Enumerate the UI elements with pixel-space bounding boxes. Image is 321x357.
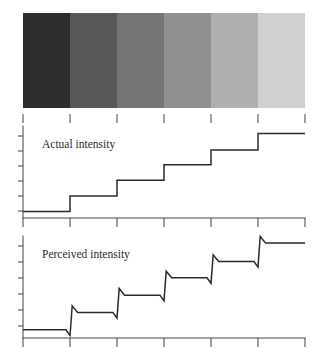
figure-canvas: Actual intensity Perceived intensity <box>0 0 321 357</box>
band-5-swatch <box>211 13 259 108</box>
mach-bands-figure: Actual intensity Perceived intensity <box>0 0 321 357</box>
band-6-swatch <box>258 13 305 108</box>
band-2-swatch <box>70 13 118 108</box>
perceived-intensity-chart: Perceived intensity <box>18 236 305 347</box>
actual-intensity-chart: Actual intensity <box>18 126 305 227</box>
grayscale-band-strip <box>23 13 305 108</box>
perceived-intensity-chart-label: Perceived intensity <box>42 248 130 261</box>
actual-intensity-chart-label: Actual intensity <box>42 138 115 151</box>
x-axis-ticks <box>23 114 305 123</box>
band-1-swatch <box>23 13 71 108</box>
band-4-swatch <box>164 13 212 108</box>
band-3-swatch <box>117 13 165 108</box>
